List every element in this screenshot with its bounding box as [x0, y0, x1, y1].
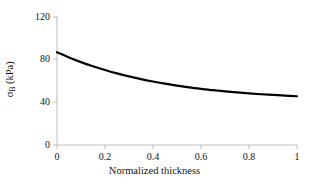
y-axis-symbol: σ: [4, 92, 15, 98]
y-axis-title: σB (kPa): [5, 43, 16, 115]
x-tick-label-0.4: 0.4: [141, 152, 165, 162]
y-axis-subscript: B: [8, 87, 17, 92]
data-series-line: [57, 52, 297, 96]
y-tick-label-120: 120: [24, 12, 50, 22]
y-tick-label-0: 0: [24, 140, 50, 150]
chart-figure: 120 80 40 0 0 0.2 0.4 0.6 0.8 1 Normaliz…: [0, 0, 309, 186]
x-tick-label-0: 0: [45, 152, 69, 162]
x-tick-label-0.6: 0.6: [189, 152, 213, 162]
x-tick-marks: [57, 145, 297, 149]
y-tick-label-80: 80: [24, 54, 50, 64]
x-tick-label-0.8: 0.8: [237, 152, 261, 162]
x-axis-title: Normalized thickness: [0, 166, 309, 177]
x-tick-label-1: 1: [285, 152, 309, 162]
y-tick-label-40: 40: [24, 97, 50, 107]
y-axis-units: (kPa): [4, 61, 15, 84]
y-tick-marks: [53, 17, 57, 145]
x-tick-label-0.2: 0.2: [93, 152, 117, 162]
